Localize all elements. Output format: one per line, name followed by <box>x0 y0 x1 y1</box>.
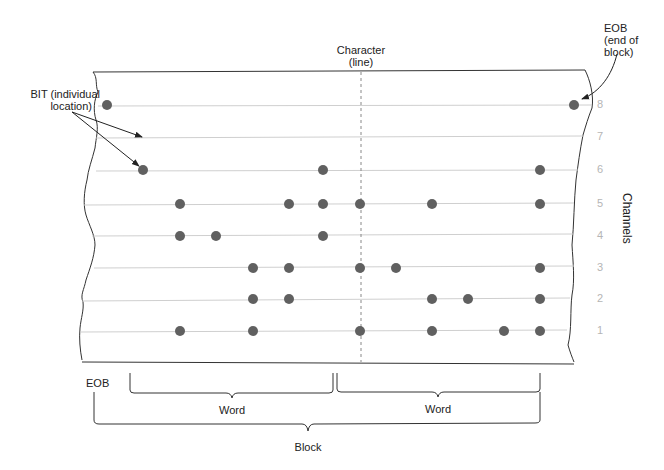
bit-dot <box>535 199 545 209</box>
character-label: Character (line) <box>318 44 404 68</box>
bit-dot <box>175 199 185 209</box>
word-right-label: Word <box>416 403 460 415</box>
tape-diagram <box>0 0 664 470</box>
channel-number-3: 3 <box>597 261 603 273</box>
bit-dot <box>569 100 579 110</box>
channel-number-1: 1 <box>597 324 603 336</box>
bit-dot <box>355 199 365 209</box>
character-label-text: Character <box>318 44 404 56</box>
channel-number-5: 5 <box>597 197 603 209</box>
bit-dot <box>248 294 258 304</box>
bit-dot <box>318 199 328 209</box>
channel-number-4: 4 <box>597 229 603 241</box>
bit-dot <box>138 165 148 175</box>
bit-dot <box>463 294 473 304</box>
bit-dot <box>248 326 258 336</box>
bit-dot <box>284 263 294 273</box>
bit-dot <box>102 100 112 110</box>
channel-number-7: 7 <box>597 130 603 142</box>
block-label: Block <box>286 441 330 453</box>
bit-dot <box>427 199 437 209</box>
word-left-label: Word <box>210 404 254 416</box>
bit-dot <box>535 165 545 175</box>
bit-dot <box>211 231 221 241</box>
eob-top-sub1: (end of <box>604 34 638 46</box>
character-label-sub: (line) <box>318 56 404 68</box>
bit-label-sub: location) <box>24 100 100 112</box>
braces <box>94 373 540 431</box>
bit-dot <box>175 231 185 241</box>
bit-dot <box>391 263 401 273</box>
channel-number-2: 2 <box>597 292 603 304</box>
bit-dot <box>499 326 509 336</box>
channel-number-6: 6 <box>597 163 603 175</box>
eob-bottom-label: EOB <box>86 377 109 389</box>
bit-dot <box>175 326 185 336</box>
channels-axis-label: Channels <box>620 193 634 244</box>
bit-dot <box>535 294 545 304</box>
eob-top-sub2: block) <box>604 46 638 58</box>
tape-outline <box>80 70 593 364</box>
bit-dot <box>535 326 545 336</box>
channel-number-8: 8 <box>597 98 603 110</box>
bit-dot <box>427 294 437 304</box>
eob-top-label: EOB (end of block) <box>604 22 638 58</box>
bit-label-text: BIT (individual <box>24 88 100 100</box>
bit-dot <box>318 165 328 175</box>
bit-dot <box>355 326 365 336</box>
bit-dot <box>284 294 294 304</box>
bit-dot <box>284 199 294 209</box>
bit-label: BIT (individual location) <box>24 88 100 112</box>
bit-dot <box>355 263 365 273</box>
bit-dot <box>248 263 258 273</box>
eob-top-text: EOB <box>604 22 638 34</box>
track-lines <box>80 105 592 332</box>
bit-dot <box>318 231 328 241</box>
bit-dot <box>427 326 437 336</box>
bit-dot <box>535 263 545 273</box>
